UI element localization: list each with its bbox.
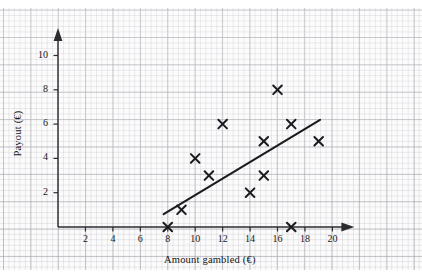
data-point-marker xyxy=(205,171,214,180)
y-axis-arrowhead xyxy=(54,28,63,41)
y-tick-label: 10 xyxy=(24,49,48,60)
data-point-marker xyxy=(177,206,186,215)
data-point-marker xyxy=(260,137,269,146)
x-tick-label: 6 xyxy=(125,233,155,244)
data-points-group xyxy=(163,86,323,232)
data-point-marker xyxy=(314,137,323,146)
x-tick-label: 8 xyxy=(153,233,183,244)
axes-group xyxy=(54,28,355,231)
x-tick-label: 18 xyxy=(290,233,320,244)
x-tick-label: 20 xyxy=(317,233,347,244)
x-tick-label: 2 xyxy=(70,233,100,244)
trend-line xyxy=(164,120,320,214)
data-point-marker xyxy=(246,188,255,197)
y-tick-label: 2 xyxy=(24,186,48,197)
chart-figure: Payout (€) Amount gambled (€) 2468101214… xyxy=(0,0,422,277)
tick-marks-group xyxy=(54,56,333,232)
data-point-marker xyxy=(218,120,227,129)
y-tick-label: 4 xyxy=(24,151,48,162)
data-point-marker xyxy=(273,86,282,95)
x-axis-label: Amount gambled (€) xyxy=(164,254,256,265)
x-axis-arrowhead xyxy=(341,223,354,232)
data-point-marker xyxy=(191,154,200,163)
trend-line-group xyxy=(164,120,320,214)
x-tick-label: 4 xyxy=(98,233,128,244)
x-tick-label: 12 xyxy=(208,233,238,244)
y-tick-label: 8 xyxy=(24,83,48,94)
y-axis-label: Payout (€) xyxy=(12,94,23,174)
x-tick-label: 14 xyxy=(235,233,265,244)
data-point-marker xyxy=(287,120,296,129)
y-tick-label: 6 xyxy=(24,117,48,128)
x-tick-label: 10 xyxy=(180,233,210,244)
x-tick-label: 16 xyxy=(263,233,293,244)
data-point-marker xyxy=(260,171,269,180)
